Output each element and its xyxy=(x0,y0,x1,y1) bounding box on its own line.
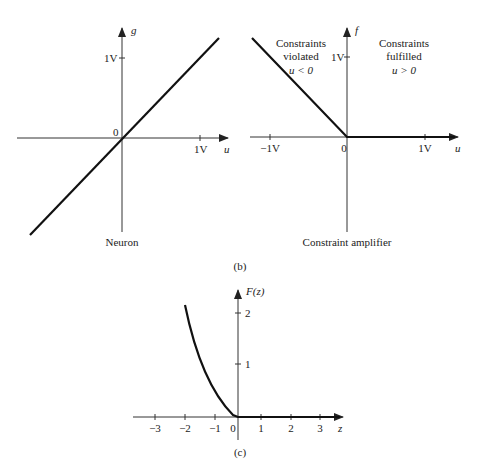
neuron-x-tick-label: 1V xyxy=(194,143,208,155)
violated-line-1: Constraints xyxy=(276,37,326,49)
constraint-x-tick-pos-label: 1V xyxy=(418,142,432,154)
constraint-x-label: u xyxy=(455,142,461,154)
penalty-x-tick-label: 1 xyxy=(258,422,264,434)
neuron-y-label: g xyxy=(131,24,137,36)
penalty-y-tick-label: 1 xyxy=(245,358,251,370)
neuron-plot: g u 0 1V 1V Neuron xyxy=(17,24,230,248)
violated-line-2: violated xyxy=(283,50,319,62)
figure-canvas: g u 0 1V 1V Neuron f u 0 −1V 1V 1V Const… xyxy=(0,0,480,475)
constraint-y-label: f xyxy=(355,24,360,36)
penalty-y-tick-label: 2 xyxy=(245,307,251,319)
constraint-origin-label: 0 xyxy=(341,142,347,154)
penalty-x-tick-label: 3 xyxy=(317,422,323,434)
constraint-amplifier-plot: f u 0 −1V 1V 1V Constraints violated u <… xyxy=(250,24,461,248)
constraint-title: Constraint amplifier xyxy=(303,236,392,248)
neuron-title: Neuron xyxy=(106,236,139,248)
fulfilled-annotation: Constraints fulfilled u > 0 xyxy=(379,37,429,76)
penalty-origin-label: 0 xyxy=(230,422,236,434)
violated-line-3: u < 0 xyxy=(289,64,313,76)
penalty-x-tick-label: −3 xyxy=(149,422,161,434)
neuron-linear-curve xyxy=(30,38,219,235)
constraint-x-tick-neg-label: −1V xyxy=(260,142,280,154)
penalty-function-plot: F(z) z 0 −3 −2 −1 1 2 3 1 2 xyxy=(133,285,343,440)
caption-c: (c) xyxy=(234,446,247,459)
neuron-origin-label: 0 xyxy=(113,126,119,138)
fulfilled-line-2: fulfilled xyxy=(386,50,422,62)
neuron-x-label: u xyxy=(224,143,230,155)
fulfilled-line-3: u > 0 xyxy=(392,64,416,76)
penalty-x-tick-label: 2 xyxy=(288,422,294,434)
penalty-x-tick-label: −1 xyxy=(209,422,221,434)
caption-b: (b) xyxy=(234,260,247,273)
penalty-x-tick-label: −2 xyxy=(179,422,191,434)
fulfilled-line-1: Constraints xyxy=(379,37,429,49)
penalty-curve xyxy=(185,305,340,417)
neuron-y-tick-label: 1V xyxy=(104,52,118,64)
penalty-y-label: F(z) xyxy=(245,285,265,298)
constraint-y-tick-label: 1V xyxy=(331,51,345,63)
penalty-x-label: z xyxy=(337,422,343,434)
